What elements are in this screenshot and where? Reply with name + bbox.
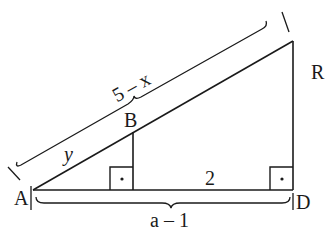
segment-label-AB: y <box>62 143 73 166</box>
segment-AR <box>33 41 293 190</box>
geometry-diagram: A B R D 5 – x y 2 a – 1 <box>0 0 331 232</box>
brace-AR <box>8 12 289 180</box>
segment-label-AD: a – 1 <box>150 209 189 231</box>
right-angle-marker-B <box>110 167 133 190</box>
point-label-B: B <box>124 109 137 131</box>
point-label-A: A <box>14 187 29 209</box>
segment-label-2: 2 <box>205 167 215 189</box>
segment-label-AR: 5 – x <box>108 67 154 106</box>
right-angle-marker-D <box>270 167 293 190</box>
point-label-R: R <box>311 61 325 83</box>
point-label-D: D <box>296 191 310 213</box>
